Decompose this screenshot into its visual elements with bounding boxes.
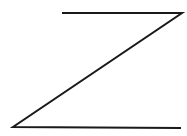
z-shape-line bbox=[13, 13, 182, 128]
z-shape-drawing bbox=[0, 0, 187, 136]
